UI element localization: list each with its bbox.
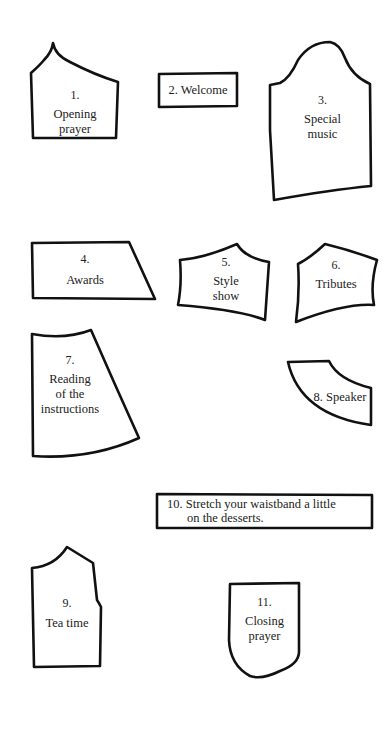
piece-2-label: 2. Welcome <box>159 83 237 98</box>
piece-9-label: 9. Tea time <box>35 596 99 631</box>
piece-5-label: 5. Style show <box>190 255 262 304</box>
piece-7-line-1: Reading <box>30 372 110 387</box>
piece-7-number: 7. <box>30 353 110 368</box>
piece-10-line-1: 10. Stretch your waistband a little <box>165 497 370 511</box>
piece-10-line-2: on the desserts. <box>165 511 370 525</box>
piece-3-line-1: Special <box>285 112 360 127</box>
piece-6-line-1: Tributes <box>300 277 372 292</box>
piece-3-number: 3. <box>285 93 360 108</box>
piece-3-label: 3. Special music <box>285 93 360 142</box>
piece-5-number: 5. <box>190 255 262 270</box>
piece-2-text: 2. Welcome <box>159 83 237 98</box>
piece-5-line-1: Style <box>190 274 262 289</box>
piece-10-label: 10. Stretch your waistband a little on t… <box>165 497 370 525</box>
piece-4-number: 4. <box>45 252 125 267</box>
piece-8-label: 8. Speaker <box>307 390 373 405</box>
piece-1-line-1: Opening <box>40 107 110 122</box>
piece-11-label: 11. Closing prayer <box>230 595 299 644</box>
piece-3-line-2: music <box>285 127 360 142</box>
piece-9-line-1: Tea time <box>35 616 99 631</box>
piece-11-line-1: Closing <box>230 614 299 629</box>
piece-11-number: 11. <box>230 595 299 610</box>
piece-6-label: 6. Tributes <box>300 258 372 292</box>
piece-4-line-1: Awards <box>45 273 125 288</box>
piece-6-number: 6. <box>300 258 372 273</box>
piece-9-number: 9. <box>35 596 99 611</box>
piece-5-line-2: show <box>190 289 262 304</box>
piece-8-text: 8. Speaker <box>307 390 373 405</box>
piece-7-line-2: of the <box>30 387 110 402</box>
piece-1-label: 1. Opening prayer <box>40 88 110 137</box>
piece-11-line-2: prayer <box>230 629 299 644</box>
piece-1-number: 1. <box>40 88 110 103</box>
piece-1-line-2: prayer <box>40 122 110 137</box>
piece-7-line-3: instructions <box>30 402 110 417</box>
piece-4-label: 4. Awards <box>45 252 125 288</box>
piece-7-label: 7. Reading of the instructions <box>30 353 110 417</box>
